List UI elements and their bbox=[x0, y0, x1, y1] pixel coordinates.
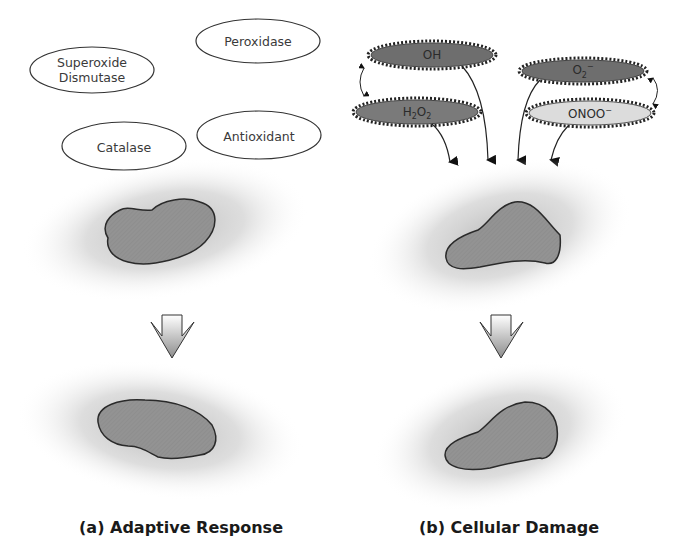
oh-text: OH bbox=[423, 48, 441, 62]
ros-label-onoo: ONOO− bbox=[568, 106, 612, 121]
onoo-charge: − bbox=[605, 106, 612, 115]
enzyme-label-catalase: Catalase bbox=[97, 140, 151, 155]
enzyme-label-antioxidant: Antioxidant bbox=[223, 129, 294, 144]
o2-onoo-interconversion-arrow bbox=[653, 78, 658, 104]
caption-cellular-damage: (b) Cellular Damage bbox=[419, 518, 599, 537]
onoo-damage-arrow bbox=[551, 126, 568, 160]
ros-label-o2: O2− bbox=[572, 62, 593, 79]
sod-line1: Superoxide bbox=[57, 55, 127, 70]
h2o2-sub2: 2 bbox=[426, 112, 431, 121]
enzyme-label-peroxidase: Peroxidase bbox=[224, 34, 292, 49]
ros-label-h2o2: H2O2 bbox=[403, 105, 432, 121]
enzyme-label-sod: Superoxide Dismutase bbox=[57, 55, 127, 85]
transition-arrow-a bbox=[151, 315, 194, 358]
transition-arrow-b bbox=[480, 315, 523, 358]
ros-label-oh: OH bbox=[423, 48, 441, 62]
caption-adaptive-response: (a) Adaptive Response bbox=[79, 518, 283, 537]
o2-charge: − bbox=[587, 62, 594, 71]
sod-line2: Dismutase bbox=[57, 70, 127, 85]
o2-sub: 2 bbox=[582, 71, 587, 80]
oh-h2o2-interconversion-arrow bbox=[360, 68, 364, 96]
h2o2-o: O bbox=[417, 105, 426, 119]
h2o2-damage-arrow bbox=[432, 124, 450, 162]
h2o2-h: H bbox=[403, 105, 412, 119]
onoo-text: ONOO bbox=[568, 107, 605, 121]
